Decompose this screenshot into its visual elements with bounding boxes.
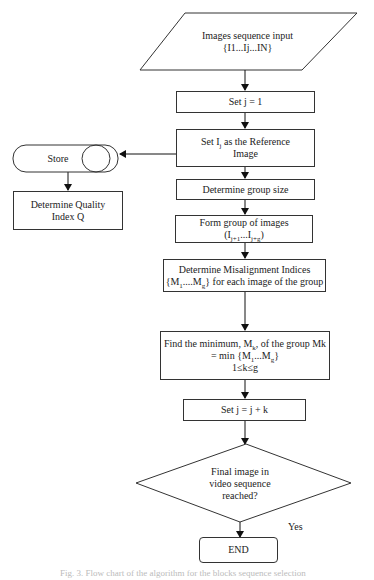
set-reference-line1: Set Ij as the Reference: [201, 136, 290, 148]
misalignment-box: Determine Misalignment Indices {M1....Mg…: [163, 259, 326, 292]
set-j-box: Set j = 1: [176, 91, 315, 113]
decision-line2: video sequence: [209, 478, 270, 490]
misalignment-line2: {M1....Mg} for each image of the group: [166, 276, 324, 288]
decision-node: Final image in video sequence reached?: [190, 465, 290, 503]
set-j-text: Set j = 1: [229, 96, 263, 108]
set-j-plus-k-box: Set j = j + k: [183, 399, 306, 421]
end-terminal: END: [199, 537, 278, 563]
decision-line1: Final image in: [211, 466, 269, 478]
group-size-box: Determine group size: [176, 179, 315, 200]
quality-index-box: Determine Quality Index Q: [13, 191, 123, 230]
end-text: END: [228, 544, 249, 556]
yes-label: Yes: [288, 521, 303, 532]
form-group-line1: Form group of images: [199, 217, 288, 229]
find-minimum-line3: 1≤k≤g: [232, 362, 258, 374]
input-line2: {I1...Ij...IN}: [223, 42, 273, 54]
find-minimum-box: Find the minimum, Mk, of the group Mk = …: [160, 331, 330, 380]
set-reference-line2: Image: [233, 148, 258, 160]
set-j-plus-k-text: Set j = j + k: [221, 404, 268, 416]
store-node: Store: [30, 152, 86, 166]
decision-line3: reached?: [222, 490, 258, 502]
input-node: Images sequence input {I1...Ij...IN}: [185, 26, 310, 58]
quality-index-line1: Determine Quality: [31, 199, 106, 211]
find-minimum-line1: Find the minimum, Mk, of the group Mk: [164, 338, 326, 350]
input-line1: Images sequence input: [202, 30, 293, 42]
quality-index-line2: Index Q: [52, 211, 85, 223]
store-text: Store: [47, 153, 68, 165]
form-group-box: Form group of images (Ij+1...Ij+g): [175, 215, 313, 243]
misalignment-line1: Determine Misalignment Indices: [179, 264, 311, 276]
set-reference-box: Set Ij as the Reference Image: [176, 129, 315, 167]
group-size-text: Determine group size: [202, 184, 288, 196]
find-minimum-line2: = min {M1...Mg}: [211, 350, 279, 362]
figure-caption: Fig. 3. Flow chart of the algorithm for …: [60, 568, 370, 578]
form-group-line2: (Ij+1...Ij+g): [224, 229, 264, 241]
